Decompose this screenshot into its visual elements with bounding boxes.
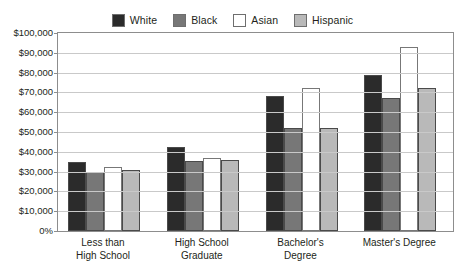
bar: [221, 160, 239, 231]
gridline: [58, 152, 453, 153]
y-axis-tick: [54, 231, 58, 232]
y-axis-tick: [54, 211, 58, 212]
bar: [418, 88, 436, 231]
y-axis-tick-label: $20,000: [19, 185, 53, 196]
plot-area: [57, 32, 454, 232]
bar: [86, 172, 104, 231]
x-axis-category-label: Less thanHigh School: [76, 236, 130, 262]
y-axis-tick-label: $50,000: [19, 126, 53, 137]
gridline: [58, 112, 453, 113]
legend-item-black[interactable]: Black: [173, 14, 217, 27]
legend-label: White: [130, 14, 157, 26]
y-axis-tick: [54, 191, 58, 192]
y-axis-tick: [54, 73, 58, 74]
legend-label: Asian: [251, 14, 278, 26]
x-axis-category-line: Graduate: [175, 249, 229, 262]
legend-swatch-icon: [294, 14, 307, 27]
x-axis-category-line: Degree: [277, 249, 323, 262]
y-axis-tick-label: $40,000: [19, 145, 53, 156]
y-axis-tick: [54, 33, 58, 34]
bar: [122, 170, 140, 231]
y-axis-tick-label: $70,000: [19, 86, 53, 97]
legend-item-asian[interactable]: Asian: [233, 14, 278, 27]
y-axis-tick-label: $60,000: [19, 106, 53, 117]
legend-label: Hispanic: [312, 14, 353, 26]
legend-swatch-icon: [233, 14, 246, 27]
x-axis-category-line: Master's Degree: [363, 236, 436, 249]
gridline: [58, 172, 453, 173]
legend-label: Black: [191, 14, 217, 26]
legend-swatch-icon: [173, 14, 186, 27]
y-axis-tick: [54, 132, 58, 133]
gridline: [58, 73, 453, 74]
y-axis-labels: $100,000$90,000$80,000$70,000$60,000$50,…: [0, 32, 53, 230]
legend-item-hispanic[interactable]: Hispanic: [294, 14, 353, 27]
x-axis-category-line: Less than: [76, 236, 130, 249]
bar: [203, 158, 221, 231]
gridline: [58, 92, 453, 93]
x-axis-category-line: Bachelor's: [277, 236, 323, 249]
bar: [400, 47, 418, 231]
bar: [320, 128, 338, 231]
bar: [167, 147, 185, 231]
x-axis-category-line: High School: [76, 249, 130, 262]
x-axis-category-label: Master's Degree: [363, 236, 436, 249]
y-axis-tick-label: $90,000: [19, 46, 53, 57]
x-axis-category-line: High School: [175, 236, 229, 249]
x-axis-category-label: High SchoolGraduate: [175, 236, 229, 262]
x-axis-labels: Less thanHigh SchoolHigh SchoolGraduateB…: [57, 236, 452, 272]
gridline: [58, 191, 453, 192]
chart-legend: WhiteBlackAsianHispanic: [0, 10, 465, 30]
gridline: [58, 53, 453, 54]
y-axis-tick-label: $100,000: [13, 27, 53, 38]
bar-chart: WhiteBlackAsianHispanic $100,000$90,000$…: [0, 0, 465, 273]
y-axis-tick-label: $80,000: [19, 66, 53, 77]
x-axis-category-label: Bachelor'sDegree: [277, 236, 323, 262]
y-axis-tick: [54, 92, 58, 93]
bar: [364, 75, 382, 231]
y-axis-tick: [54, 172, 58, 173]
y-axis-tick: [54, 112, 58, 113]
y-axis-tick-label: $10,000: [19, 205, 53, 216]
y-axis-tick-label: $30,000: [19, 165, 53, 176]
y-axis-tick-label: 0%: [39, 225, 53, 236]
bar: [302, 88, 320, 231]
gridline: [58, 211, 453, 212]
legend-swatch-icon: [112, 14, 125, 27]
y-axis-tick: [54, 152, 58, 153]
bar: [104, 167, 122, 231]
bar: [284, 128, 302, 231]
legend-item-white[interactable]: White: [112, 14, 157, 27]
gridline: [58, 132, 453, 133]
y-axis-tick: [54, 53, 58, 54]
